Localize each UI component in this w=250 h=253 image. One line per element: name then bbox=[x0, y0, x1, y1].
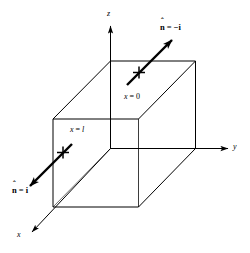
cube-group bbox=[53, 61, 196, 207]
face-label-xl-value: l bbox=[82, 125, 84, 134]
face-label-x0-value: 0 bbox=[136, 92, 140, 101]
normal-arrow-plus-i bbox=[30, 144, 72, 186]
n-hat-symbol-plus-i: ˆn bbox=[12, 186, 17, 195]
cube-edge-depth-top-right bbox=[139, 61, 196, 119]
normal-label-minus-i: ˆn = −i bbox=[160, 23, 181, 32]
cube-edge-depth-bottom-left bbox=[53, 149, 111, 208]
face-label-xl-equals: = bbox=[74, 125, 83, 134]
face-label-x0-equals: = bbox=[128, 92, 137, 101]
face-label-x-equals-l: x = l bbox=[70, 126, 84, 134]
cube-edge-depth-top-left bbox=[53, 61, 111, 119]
normal-value-minus-i: −i bbox=[174, 22, 181, 32]
x-axis-label: x bbox=[17, 231, 21, 239]
figure-container: z y x x = 0 x = l ˆn = −i ˆn = i bbox=[0, 0, 250, 253]
normal-arrow-minus-i bbox=[127, 40, 172, 85]
cube-diagram-svg bbox=[0, 0, 250, 253]
hat-accent-icon: ˆ bbox=[160, 18, 165, 26]
normal-equals-plus-i: = bbox=[17, 185, 26, 195]
cube-edge-depth-bottom-right bbox=[139, 149, 196, 208]
normal-label-plus-i: ˆn = i bbox=[12, 186, 28, 195]
hat-accent-icon: ˆ bbox=[12, 181, 17, 189]
z-axis-label: z bbox=[107, 10, 110, 18]
normal-equals-minus-i: = bbox=[165, 22, 174, 32]
normal-vectors-group bbox=[30, 40, 172, 186]
n-hat-symbol-minus-i: ˆn bbox=[160, 23, 165, 32]
y-axis-label: y bbox=[233, 143, 237, 151]
normal-value-plus-i: i bbox=[26, 185, 28, 195]
face-label-x-equals-0: x = 0 bbox=[124, 93, 140, 101]
axis-group bbox=[32, 26, 228, 232]
